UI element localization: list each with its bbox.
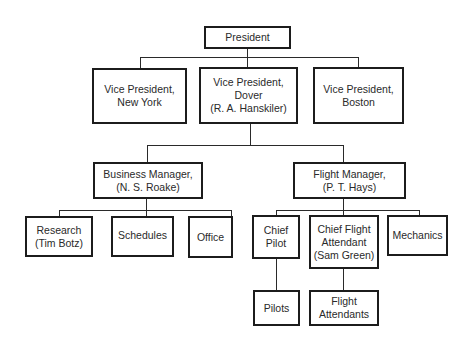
node-flight-manager: Flight Manager, (P. T. Hays): [293, 162, 406, 199]
connector-business-down: [146, 198, 147, 210]
connector-business-manager: [147, 145, 148, 162]
connector-vp-new-york: [140, 57, 141, 68]
node-chief-flight-attendant: Chief Flight Attendant (Sam Green): [309, 215, 379, 269]
connector-vp-dover: [247, 57, 248, 67]
node-schedules: Schedules: [111, 216, 174, 257]
node-pilots: Pilots: [253, 290, 300, 326]
node-research: Research (Tim Botz): [25, 216, 93, 257]
node-president: President: [204, 26, 291, 49]
connector-dover-down: [250, 123, 251, 145]
node-business-manager: Business Manager, (N. S. Roake): [93, 162, 203, 199]
node-flight-attendants: Flight Attendants: [309, 290, 379, 326]
connector-vp-boston: [358, 57, 359, 67]
node-vp-boston: Vice President, Boston: [313, 67, 404, 124]
connector-flight-manager: [343, 145, 344, 162]
connector-flight-down: [343, 198, 344, 210]
connector-vp-bar: [140, 57, 359, 58]
node-vp-dover: Vice President, Dover (R. A. Hanskiler): [199, 67, 298, 124]
node-vp-new-york: Vice President, New York: [92, 68, 187, 124]
connector-flight-bar: [276, 210, 420, 211]
node-mechanics: Mechanics: [387, 215, 448, 256]
connector-manager-bar: [147, 145, 344, 146]
node-chief-pilot: Chief Pilot: [252, 215, 300, 259]
connector-president-down: [247, 48, 248, 57]
connector-pilots: [276, 258, 277, 290]
node-office: Office: [188, 216, 233, 258]
connector-flight-attendants: [343, 268, 344, 290]
